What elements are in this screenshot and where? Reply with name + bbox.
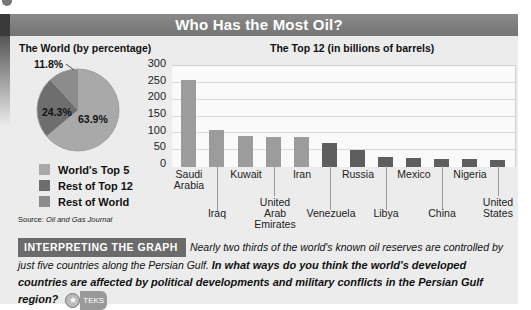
x-label: Venezuela	[305, 208, 357, 219]
bar-russia	[350, 150, 365, 167]
bar-nigeria	[462, 159, 477, 167]
x-label: Saudi Arabia	[168, 169, 210, 191]
legend-item-top5: World's Top 5	[39, 162, 133, 177]
pie-chart-title: The World (by percentage)	[19, 42, 151, 54]
x-label: Kuwait	[226, 169, 266, 180]
x-label: Iran	[282, 169, 322, 180]
label-leader-iraq	[217, 166, 218, 212]
gridline	[172, 82, 515, 83]
legend-item-rest-top12: Rest of Top 12	[39, 178, 133, 193]
y-tick: 300	[138, 57, 166, 69]
legend-item-rest-world: Rest of World	[39, 194, 133, 209]
label-leader-venezuela	[330, 166, 331, 210]
pie-label-rest-world: 11.8%	[34, 58, 63, 70]
label-leader-uae	[274, 166, 275, 196]
legend-label: Rest of Top 12	[58, 180, 133, 192]
bar-venezuela	[322, 143, 337, 167]
legend-swatch	[39, 196, 50, 207]
x-label: Libya	[366, 208, 406, 219]
pie-legend: World's Top 5 Rest of Top 12 Rest of Wor…	[39, 162, 133, 210]
bar-mexico	[406, 158, 421, 167]
y-tick: 0	[138, 157, 166, 169]
label-leader-china	[442, 166, 443, 210]
left-accent	[0, 36, 10, 126]
page-title: Who Has the Most Oil?	[0, 16, 518, 33]
section-marker-icon	[2, 0, 12, 6]
label-leader-libya	[386, 166, 387, 210]
bar-kuwait	[238, 136, 253, 167]
y-tick: 150	[138, 107, 166, 119]
gridline	[172, 99, 515, 100]
legend-swatch	[39, 164, 50, 175]
teks-badge[interactable]: ★TEKS	[65, 291, 107, 310]
y-tick: 250	[138, 74, 166, 86]
interpreting-tag: INTERPRETING THE GRAPH	[18, 238, 186, 257]
x-label: China	[422, 208, 462, 219]
bar-saudi-arabia	[181, 80, 196, 167]
y-tick: 200	[138, 90, 166, 102]
x-label: Nigeria	[450, 169, 490, 180]
interpreting-section: INTERPRETING THE GRAPHNearly two thirds …	[18, 238, 518, 298]
legend-label: World's Top 5	[58, 164, 129, 176]
label-leader-united-states	[498, 166, 499, 196]
title-bar: Who Has the Most Oil?	[0, 14, 518, 36]
y-tick: 100	[138, 124, 166, 136]
legend-swatch	[39, 180, 50, 191]
x-label: Iraq	[197, 208, 237, 219]
gridline	[172, 116, 515, 117]
source-name: Oil and Gas Journal	[46, 215, 112, 224]
bar-plot-area	[172, 65, 516, 167]
source-note: Source: Oil and Gas Journal	[18, 215, 112, 224]
source-prefix: Source:	[18, 215, 46, 224]
bar-iran	[294, 137, 309, 167]
star-icon: ★	[65, 293, 80, 308]
x-label: United States	[478, 197, 518, 219]
pie-leader-line	[66, 63, 78, 73]
pie-label-rest-top12: 24.3%	[42, 106, 72, 118]
bar-iraq	[209, 130, 224, 167]
y-tick: 50	[138, 140, 166, 152]
x-label: United Arab Emirates	[248, 197, 302, 230]
teks-label: TEKS	[80, 291, 107, 310]
bar-uae	[266, 137, 281, 167]
x-label: Mexico	[394, 169, 434, 180]
legend-label: Rest of World	[58, 196, 129, 208]
pie-label-top5: 63.9%	[78, 113, 108, 125]
bar-chart-title: The Top 12 (in billions of barrels)	[270, 42, 434, 54]
x-label: Russia	[338, 169, 378, 180]
